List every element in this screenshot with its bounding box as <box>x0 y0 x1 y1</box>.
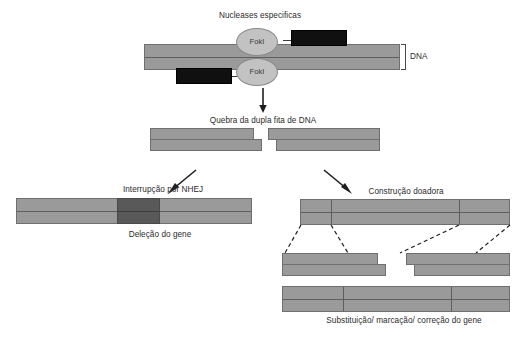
gene-deletion-label: Deleção do gene <box>129 230 192 239</box>
donor-homology-arm-divider-left <box>331 200 332 224</box>
foki-label-bottom: FokI <box>250 68 265 76</box>
donor-construct-label: Construção doadora <box>368 187 443 196</box>
zfn-gene-editing-diagram: Nucleases especificas FokI FokI DNA Queb… <box>0 0 520 337</box>
gene-deletion-divider <box>118 211 159 212</box>
dna-label: DNA <box>410 52 427 61</box>
donor-homology-arm-divider-right <box>459 200 460 224</box>
target-right-bottom-strand <box>414 264 510 276</box>
double-strand-break-label: Quebra da dupla fita de DNA <box>210 116 317 125</box>
zinc-finger-domain-bottom <box>176 68 232 84</box>
foki-label-top: FokI <box>250 38 265 46</box>
target-left-bottom-strand <box>282 264 386 276</box>
nhej-label: Interrupção por NHEJ <box>123 185 203 194</box>
dna-bracket <box>401 44 406 70</box>
edited-locus-junction-left <box>343 287 344 311</box>
edited-locus-duplex <box>282 286 510 312</box>
break-left-bottom-strand <box>150 139 262 151</box>
arrow-branch-donor <box>320 168 354 196</box>
donor-strand-divider <box>301 212 509 213</box>
edited-locus-divider <box>283 299 509 300</box>
gene-replacement-label: Substituição/ marcação/ correção do gene <box>326 316 481 325</box>
edited-locus-junction-right <box>451 287 452 311</box>
dna-strand-divider <box>145 57 399 58</box>
arrow-down-to-break <box>256 88 270 114</box>
foki-domain-top: FokI <box>236 28 278 56</box>
zinc-finger-domain-top <box>291 30 347 46</box>
foki-domain-bottom: FokI <box>236 58 278 86</box>
gene-deletion-block <box>117 198 160 224</box>
nucleases-title: Nucleases especificas <box>219 11 301 20</box>
break-right-bottom-strand <box>276 139 380 151</box>
